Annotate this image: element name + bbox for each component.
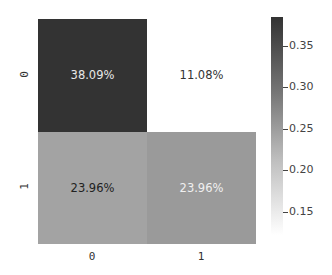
colorbar-tick-label: 0.35 — [289, 40, 314, 51]
y-tick-label-1: 1 — [18, 181, 31, 193]
colorbar-tick-label: 0.20 — [289, 164, 314, 175]
heatmap-cell-0-1: 11.08% — [147, 19, 256, 132]
cell-annotation: 23.96% — [71, 181, 115, 195]
x-tick-label-0: 0 — [82, 250, 102, 263]
heatmap-grid: 38.09% 11.08% 23.96% 23.96% — [38, 19, 256, 244]
cell-annotation: 11.08% — [180, 68, 224, 82]
colorbar-tick-label: 0.25 — [289, 123, 314, 134]
colorbar-tick-label: 0.15 — [289, 206, 314, 217]
colorbar-tick — [283, 129, 288, 130]
heatmap-cell-1-0: 23.96% — [38, 132, 147, 245]
colorbar-tick — [283, 170, 288, 171]
cell-annotation: 38.09% — [71, 68, 115, 82]
cell-annotation: 23.96% — [180, 181, 224, 195]
colorbar-tick-label: 0.30 — [289, 81, 314, 92]
colorbar-tick — [283, 87, 288, 88]
y-tick-label-0: 0 — [18, 69, 31, 81]
heatmap-cell-1-1: 23.96% — [147, 132, 256, 245]
colorbar — [271, 17, 283, 235]
x-tick-label-1: 1 — [191, 250, 211, 263]
colorbar-tick — [283, 212, 288, 213]
heatmap-cell-0-0: 38.09% — [38, 19, 147, 132]
colorbar-tick — [283, 46, 288, 47]
